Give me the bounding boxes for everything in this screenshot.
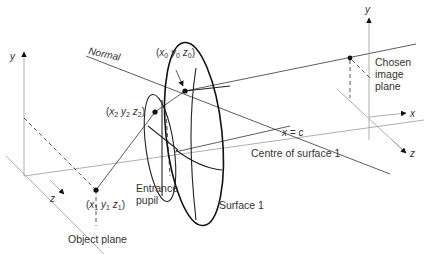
- right-x-axis: [369, 113, 406, 117]
- image-plane-pointer: [352, 60, 370, 78]
- left-z-label: z: [49, 193, 55, 204]
- point-1-label: (x1 y1 z1): [86, 199, 125, 211]
- object-plane-label: Object plane: [68, 233, 127, 245]
- point-0-label: (x0 y0 z0): [156, 47, 195, 59]
- entrance-pupil-label-line1: Entrance: [136, 182, 178, 194]
- right-y-label: y: [364, 4, 371, 15]
- point-0-dot: [182, 88, 187, 93]
- chosen-image-plane-line3: plane: [375, 80, 401, 92]
- centre-of-surface-label: Centre of surface 1: [251, 147, 340, 159]
- point-2-label: (x2 y2 z2): [106, 106, 145, 118]
- x-equals-c-label: x = c: [281, 127, 303, 138]
- entrance-pupil-horizontal-chord: [148, 126, 178, 150]
- left-y-label: y: [9, 51, 16, 62]
- right-z-axis-arrow: [392, 140, 406, 153]
- point-1-dot: [93, 187, 98, 192]
- point-2-dot: [152, 109, 157, 114]
- chosen-image-plane-line1: Chosen: [375, 56, 411, 68]
- right-x-label: x: [409, 108, 416, 119]
- right-z-label: z: [409, 148, 415, 159]
- surface-1-label: Surface 1: [219, 199, 264, 211]
- chosen-image-plane-line2: image: [375, 68, 404, 80]
- entrance-pupil-label-line2: pupil: [136, 194, 158, 206]
- image-point-dot: [348, 56, 353, 61]
- surface-1-chord: [176, 150, 222, 170]
- point-0-pointer: [176, 70, 183, 86]
- normal-label: Normal: [88, 45, 123, 63]
- left-axes: y z: [6, 51, 424, 254]
- object-plane-dashed-diagonal: [24, 118, 96, 190]
- ray-segment-pupil-to-surface: [155, 91, 185, 112]
- optical-ray-trace-diagram: y z Normal (x0 y0 z0) (x2 y2 z2) (x1 y1 …: [0, 0, 424, 254]
- left-z-axis-arrow: [50, 180, 64, 194]
